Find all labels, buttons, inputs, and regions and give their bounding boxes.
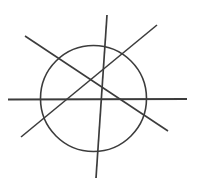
horizontal-line — [8, 99, 187, 100]
drawing-canvas — [0, 0, 199, 193]
line-drawing-figure — [0, 0, 199, 193]
figure-background — [0, 0, 199, 193]
